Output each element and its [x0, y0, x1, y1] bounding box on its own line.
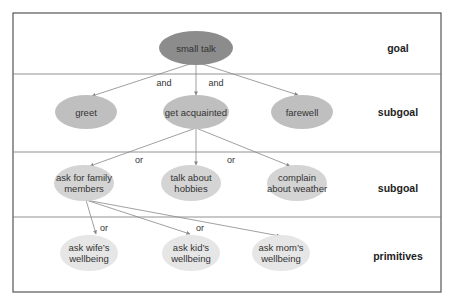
edge-label: or	[196, 223, 204, 233]
node-label: small talk	[176, 43, 216, 54]
node-label: ask for family	[56, 172, 112, 183]
node-get-acquainted: get acquainted	[163, 95, 229, 129]
edge-label: or	[100, 223, 108, 233]
node-label: wellbeing	[170, 253, 211, 264]
node-label: talk about	[170, 172, 212, 183]
node-small-talk: small talk	[159, 31, 233, 65]
edge-arrow	[92, 62, 196, 96]
node-ask-mom: ask mom’swellbeing	[252, 235, 310, 271]
node-label: members	[64, 183, 104, 194]
node-label: ask kid’s	[173, 242, 210, 253]
hierarchy-diagram: small talkgreetget acquaintedfarewellask…	[0, 0, 451, 303]
node-ask-kid: ask kid’swellbeing	[162, 235, 220, 271]
edge-label: or	[135, 155, 143, 165]
level-label-subgoal: subgoal	[378, 182, 418, 194]
edge-arrow	[196, 128, 290, 166]
node-label: ask wife’s	[68, 242, 109, 253]
node-ask-family: ask for familymembers	[54, 165, 114, 201]
level-label-primitives: primitives	[373, 250, 423, 262]
node-talk-hobbies: talk abouthobbies	[161, 165, 221, 201]
node-label: wellbeing	[260, 253, 301, 264]
node-label: wellbeing	[68, 253, 109, 264]
edge-arrow	[86, 200, 280, 236]
edge-label: or	[227, 155, 235, 165]
nodes: small talkgreetget acquaintedfarewellask…	[54, 31, 333, 271]
edge-label: and	[208, 78, 223, 88]
edge-label: and	[156, 78, 171, 88]
node-label: complain	[278, 172, 316, 183]
node-greet: greet	[55, 95, 117, 129]
node-farewell: farewell	[271, 95, 333, 129]
node-label: farewell	[286, 107, 319, 118]
level-label-subgoal: subgoal	[378, 106, 418, 118]
node-complain-weather: complainabout weather	[267, 165, 327, 201]
node-ask-wife: ask wife’swellbeing	[60, 235, 118, 271]
node-label: hobbies	[174, 183, 208, 194]
level-label-goal: goal	[387, 42, 409, 54]
node-label: get acquainted	[165, 107, 227, 118]
node-label: ask mom’s	[258, 242, 303, 253]
node-label: greet	[75, 107, 97, 118]
edges	[86, 62, 298, 236]
node-label: about weather	[267, 183, 327, 194]
